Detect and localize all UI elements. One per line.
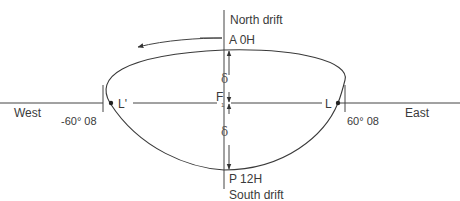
south-drift-label: South drift	[229, 188, 284, 201]
left-point-dot	[109, 101, 113, 105]
rotation-direction-arrow	[138, 38, 222, 47]
left-angle-label: -60° 08	[61, 115, 97, 127]
bottom-point-label: P 12H	[229, 172, 262, 186]
left-point-label: L'	[118, 97, 127, 111]
gyro-drift-diagram: North drift A 0H δ F 1 δ P 12H South dri…	[0, 0, 460, 201]
delta-upper-label: δ	[221, 72, 228, 86]
north-drift-label: North drift	[230, 13, 283, 27]
right-angle-label: 60° 08	[347, 115, 379, 127]
right-point-dot	[336, 101, 340, 105]
west-label: West	[14, 106, 42, 120]
top-point-label: A 0H	[229, 33, 255, 47]
delta-lower-label: δ	[221, 125, 228, 139]
east-label: East	[405, 106, 430, 120]
right-point-label: L	[325, 97, 332, 111]
